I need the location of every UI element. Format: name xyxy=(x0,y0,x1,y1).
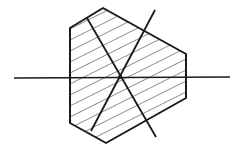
hatch-line xyxy=(60,118,200,152)
hatch-line xyxy=(60,0,200,34)
hatch-line xyxy=(60,74,200,144)
hatch-line xyxy=(60,52,200,122)
hatch-line xyxy=(60,0,200,12)
center-point xyxy=(118,75,122,79)
hatch-line xyxy=(60,30,200,100)
hatch-line xyxy=(60,19,200,89)
geometry-diagram xyxy=(0,0,243,152)
hatch-line xyxy=(60,151,200,152)
hatch-line xyxy=(60,63,200,133)
hatch-line xyxy=(60,140,200,152)
hatch-line xyxy=(60,96,200,152)
hatch-line xyxy=(60,0,200,1)
hatch-line xyxy=(60,0,200,56)
hatch-line xyxy=(60,129,200,152)
hatch-line xyxy=(60,85,200,152)
hatch-line xyxy=(60,8,200,78)
hatch-line xyxy=(60,0,200,23)
hatch-line xyxy=(60,41,200,111)
